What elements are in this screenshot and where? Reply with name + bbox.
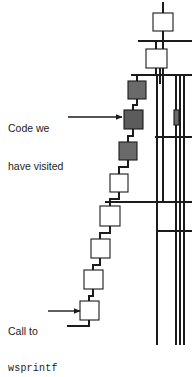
node-group xyxy=(80,13,179,320)
node-visited-upper xyxy=(128,81,146,99)
edge-n4-n5 xyxy=(128,129,133,142)
node-visited-lower xyxy=(119,142,137,160)
edge-n2-n3 xyxy=(137,68,156,81)
node-white-3 xyxy=(91,239,110,258)
node-second xyxy=(146,49,167,68)
edge-n8-n9 xyxy=(93,258,100,270)
node-top xyxy=(153,13,173,31)
visited-callout-line2: have visited xyxy=(8,160,63,173)
edge-n7-n8 xyxy=(100,226,110,239)
edge-n6-n7 xyxy=(110,192,119,206)
edge-n1-n2 xyxy=(156,31,163,49)
edge-n3-n4 xyxy=(133,99,137,110)
node-edge-marker xyxy=(174,110,179,125)
wsprintf-callout-label: Call to wsprintf xyxy=(8,300,58,377)
visited-callout-label: Code we have visited xyxy=(8,97,63,197)
visited-callout-line1: Code we xyxy=(8,122,63,135)
wsprintf-callout-line1: Call to xyxy=(8,325,58,338)
edge-n10-out xyxy=(67,320,89,326)
rail-group xyxy=(105,41,192,345)
edge-n5-n6 xyxy=(119,160,128,174)
node-white-4 xyxy=(84,270,103,289)
edge-n9-n10 xyxy=(89,289,93,301)
node-white-2 xyxy=(100,206,120,226)
wsprintf-callout-line2: wsprintf xyxy=(8,363,58,376)
node-white-1 xyxy=(110,174,128,192)
node-wsprintf xyxy=(80,301,99,320)
node-visited-mid xyxy=(124,110,143,129)
